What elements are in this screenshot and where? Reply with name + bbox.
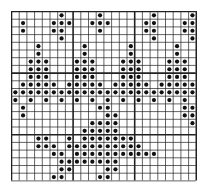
stitch-dot bbox=[90, 59, 94, 63]
stitch-dot bbox=[75, 83, 79, 87]
stitch-dot bbox=[90, 21, 94, 25]
stitch-dot bbox=[59, 29, 63, 33]
stitch-dot bbox=[44, 67, 48, 71]
stitch-dot bbox=[67, 136, 71, 140]
stitch-dot bbox=[21, 83, 25, 87]
stitch-dot bbox=[13, 98, 17, 102]
stitch-dot bbox=[90, 129, 94, 133]
stitch-dot bbox=[106, 121, 110, 125]
stitch-dot bbox=[167, 90, 171, 94]
stitch-dot bbox=[21, 106, 25, 110]
stitch-dot bbox=[90, 98, 94, 102]
stitch-dot bbox=[129, 144, 133, 148]
stitch-dot bbox=[29, 83, 33, 87]
stitch-dot bbox=[98, 144, 102, 148]
stitch-dot bbox=[52, 152, 56, 156]
stitch-dot bbox=[144, 83, 148, 87]
stitch-dot bbox=[106, 98, 110, 102]
stitch-dot bbox=[190, 113, 194, 117]
stitch-dot bbox=[44, 59, 48, 63]
stitch-dot bbox=[36, 52, 40, 56]
stitch-dot bbox=[36, 136, 40, 140]
stitch-dot bbox=[152, 21, 156, 25]
stitch-dot bbox=[59, 36, 63, 40]
stitch-dot bbox=[167, 67, 171, 71]
stitch-dot bbox=[183, 59, 187, 63]
stitch-dot bbox=[190, 36, 194, 40]
stitch-dot bbox=[136, 152, 140, 156]
stitch-dot bbox=[75, 67, 79, 71]
stitch-dot bbox=[83, 129, 87, 133]
stitch-dot bbox=[44, 144, 48, 148]
stitch-dot bbox=[59, 13, 63, 17]
stitch-dot bbox=[52, 175, 56, 179]
stitch-dot bbox=[190, 121, 194, 125]
stitch-dot bbox=[175, 83, 179, 87]
stitch-dot bbox=[152, 98, 156, 102]
stitch-dot bbox=[129, 59, 133, 63]
stitch-dot bbox=[129, 136, 133, 140]
stitch-dot bbox=[121, 75, 125, 79]
stitch-dot bbox=[175, 52, 179, 56]
stitch-dot bbox=[175, 75, 179, 79]
stitch-dot bbox=[44, 75, 48, 79]
stitch-dot bbox=[175, 67, 179, 71]
stitch-dot bbox=[183, 21, 187, 25]
stitch-dot bbox=[90, 144, 94, 148]
stitch-dot bbox=[183, 75, 187, 79]
stitch-dot bbox=[75, 75, 79, 79]
stitch-dot bbox=[75, 59, 79, 63]
stitch-dot bbox=[90, 83, 94, 87]
stitch-dot bbox=[129, 75, 133, 79]
stitch-dot bbox=[36, 59, 40, 63]
stitch-dot bbox=[190, 83, 194, 87]
stitch-dot bbox=[167, 83, 171, 87]
stitch-dot bbox=[121, 90, 125, 94]
stitch-dot bbox=[36, 144, 40, 148]
stitch-dot bbox=[106, 21, 110, 25]
stitch-dot bbox=[98, 136, 102, 140]
stitch-dot bbox=[152, 36, 156, 40]
stitch-dot bbox=[113, 144, 117, 148]
stitch-dot bbox=[98, 90, 102, 94]
stitch-dot bbox=[152, 13, 156, 17]
stitch-dot bbox=[106, 113, 110, 117]
stitch-dot bbox=[52, 29, 56, 33]
stitch-dot bbox=[136, 59, 140, 63]
stitch-dot bbox=[90, 67, 94, 71]
stitch-dot bbox=[129, 152, 133, 156]
stitch-dot bbox=[59, 167, 63, 171]
stitch-dot bbox=[36, 44, 40, 48]
stitch-dot bbox=[83, 136, 87, 140]
stitch-dot bbox=[129, 44, 133, 48]
stitch-dot bbox=[98, 121, 102, 125]
stitch-dot bbox=[59, 98, 63, 102]
stitch-dot bbox=[183, 90, 187, 94]
stitch-dot bbox=[136, 75, 140, 79]
stitch-dot bbox=[83, 152, 87, 156]
stitch-dot bbox=[106, 129, 110, 133]
stitch-dot bbox=[29, 98, 33, 102]
stitch-dot bbox=[90, 121, 94, 125]
stitch-dot bbox=[75, 90, 79, 94]
stitch-dot bbox=[113, 167, 117, 171]
stitch-dot bbox=[52, 21, 56, 25]
stitch-dot bbox=[113, 83, 117, 87]
stitch-dot bbox=[36, 90, 40, 94]
stitch-dot bbox=[29, 90, 33, 94]
stitch-dot bbox=[98, 106, 102, 110]
stitch-dot bbox=[190, 106, 194, 110]
chart-grid bbox=[11, 11, 197, 182]
stitch-dot bbox=[144, 90, 148, 94]
stitch-dot bbox=[136, 90, 140, 94]
stitch-dot bbox=[83, 160, 87, 164]
stitch-dot bbox=[98, 13, 102, 17]
stitch-dot bbox=[83, 83, 87, 87]
stitch-dot bbox=[83, 144, 87, 148]
stitch-dot bbox=[129, 83, 133, 87]
stitch-dot bbox=[52, 90, 56, 94]
stitch-dot bbox=[113, 160, 117, 164]
stitch-dot bbox=[75, 160, 79, 164]
stitch-dot bbox=[175, 44, 179, 48]
stitch-dot bbox=[106, 152, 110, 156]
